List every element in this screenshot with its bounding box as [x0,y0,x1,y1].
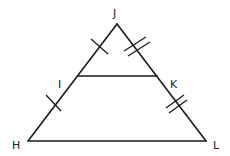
label-j: J [112,7,116,20]
side-jl [117,24,206,141]
triangle-diagram: J I K H L [0,0,230,156]
double-tick-kl [166,95,187,113]
tick-ji [91,39,108,54]
label-l: L [213,139,220,152]
label-k: K [170,78,178,91]
double-tick-jk [124,37,150,56]
label-h: H [12,139,20,152]
label-i: I [58,78,61,91]
side-jh [28,24,117,141]
